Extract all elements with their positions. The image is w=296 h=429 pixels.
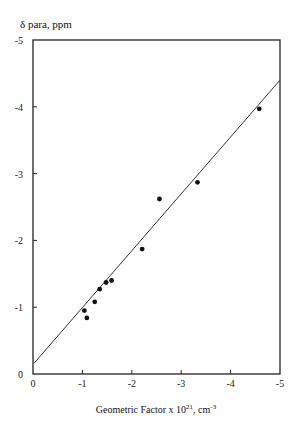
y-tick-label: -5 (15, 35, 23, 46)
x-axis-label-unit-exponent: -3 (210, 403, 216, 411)
data-point (84, 315, 89, 320)
y-tick-label: -3 (15, 169, 23, 180)
x-tick-label: -3 (177, 378, 185, 389)
x-tick-label: 0 (31, 378, 36, 389)
data-point (97, 287, 102, 292)
data-point (109, 278, 114, 283)
data-points (82, 106, 262, 320)
y-tick-label: -4 (15, 102, 23, 113)
scatter-plot: 0-1-2-3-4-50-1-2-3-4-5 (0, 0, 296, 429)
data-point (157, 197, 162, 202)
plot-frame (33, 40, 280, 374)
y-tick-label: -2 (15, 235, 23, 246)
x-tick-label: -5 (276, 378, 284, 389)
regression-line (34, 80, 280, 363)
data-point (140, 247, 145, 252)
x-axis-label: Geometric Factor x 1021, cm-3 (0, 403, 296, 415)
x-tick-label: -4 (226, 378, 234, 389)
fit-line (34, 80, 280, 363)
data-point (92, 299, 97, 304)
data-point (82, 308, 87, 313)
x-tick-label: -2 (128, 378, 136, 389)
y-tick-label: -1 (15, 302, 23, 313)
data-point (257, 106, 262, 111)
y-tick-label: 0 (18, 369, 23, 380)
data-point (195, 180, 200, 185)
data-point (104, 280, 109, 285)
plot-border (33, 40, 280, 374)
x-axis-label-main: Geometric Factor x 10 (96, 404, 186, 415)
axis-ticks: 0-1-2-3-4-50-1-2-3-4-5 (15, 35, 285, 389)
x-tick-label: -1 (78, 378, 86, 389)
x-axis-label-unit: , cm (193, 404, 210, 415)
